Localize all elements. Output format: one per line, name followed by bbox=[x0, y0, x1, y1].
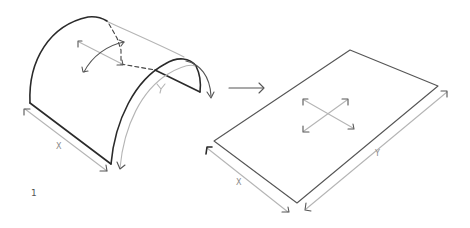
figure-number: 1 bbox=[31, 188, 37, 198]
shell-x-dimension-line bbox=[25, 109, 107, 171]
plate-y-label: Y bbox=[374, 149, 380, 158]
shell-cross-curved bbox=[84, 42, 124, 72]
plate-x-dimension-line bbox=[207, 148, 288, 212]
plate-x-arrowhead-start bbox=[206, 147, 212, 154]
shell-x-label: X bbox=[56, 142, 62, 151]
plate-x-label: X bbox=[236, 178, 242, 187]
diagram-canvas: X 1 X Y bbox=[0, 0, 470, 228]
plate-cross-line-b bbox=[304, 100, 347, 131]
right-arrow-icon bbox=[229, 83, 264, 93]
shell-hidden-horizontal bbox=[121, 64, 155, 70]
shell-y-dimension-arc bbox=[120, 65, 195, 168]
shell-near-arc bbox=[111, 59, 200, 164]
curved-shell: X 1 bbox=[24, 17, 214, 198]
flat-plate: X Y bbox=[206, 50, 447, 212]
shell-y-tick bbox=[157, 84, 165, 93]
shell-front-arc bbox=[30, 17, 107, 103]
shell-front-bottom-edge bbox=[30, 103, 111, 164]
